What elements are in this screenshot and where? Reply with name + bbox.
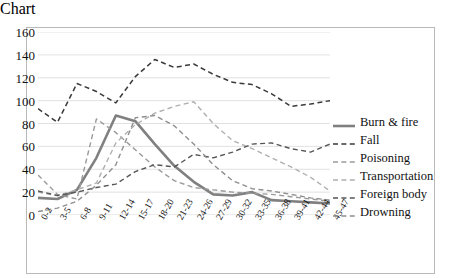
plot-svg <box>38 32 330 215</box>
legend-label: Fall <box>360 134 379 147</box>
y-axis-tick-label: 100 <box>5 94 35 107</box>
x-axis-labels: 0-23-56-89-1112-1415-1718-2021-2324-2627… <box>38 217 330 273</box>
y-axis-tick-label: 20 <box>5 186 35 199</box>
legend-label: Foreign body <box>360 188 427 201</box>
y-axis-labels: 160140120100806040200 <box>2 32 35 215</box>
plot-area <box>38 32 330 215</box>
legend-item[interactable]: Fall <box>333 131 433 149</box>
y-axis-tick-label: 140 <box>5 48 35 61</box>
series-line-fall <box>38 59 330 122</box>
legend-label: Poisoning <box>360 152 410 165</box>
y-axis-tick-label: 120 <box>5 71 35 84</box>
y-axis-tick-label: 80 <box>5 117 35 130</box>
legend-label: Transportation <box>360 170 433 183</box>
legend-label: Drowning <box>360 206 411 219</box>
y-axis-tick-label: 0 <box>5 209 35 222</box>
y-axis-tick-label: 60 <box>5 140 35 153</box>
legend-item[interactable]: Burn & fire <box>333 113 433 131</box>
y-axis-tick-label: 160 <box>5 26 35 39</box>
legend-item[interactable]: Poisoning <box>333 149 433 167</box>
legend-item[interactable]: Foreign body <box>333 185 433 203</box>
series-line-drowning <box>38 115 330 211</box>
chart-container: 160140120100806040200 0-23-56-89-1112-14… <box>0 18 460 278</box>
y-axis-tick-label: 40 <box>5 163 35 176</box>
legend-item[interactable]: Transportation <box>333 167 433 185</box>
legend-label: Burn & fire <box>360 116 418 129</box>
chart-legend: Burn & fireFallPoisoningTransportationFo… <box>333 113 433 221</box>
legend-item[interactable]: Drowning <box>333 203 433 221</box>
